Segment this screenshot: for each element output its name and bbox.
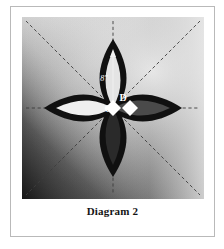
vertex-label-c: C <box>104 103 111 114</box>
diagram-image-panel: 8" C D <box>22 17 204 199</box>
figure-caption: Diagram 2 <box>11 205 214 217</box>
dimension-label-8in: 8" <box>100 74 108 83</box>
vertex-label-d: D <box>119 92 126 103</box>
figure-frame: 8" C D Diagram 2 <box>10 6 215 237</box>
diagram-svg: 8" C D <box>22 17 204 199</box>
